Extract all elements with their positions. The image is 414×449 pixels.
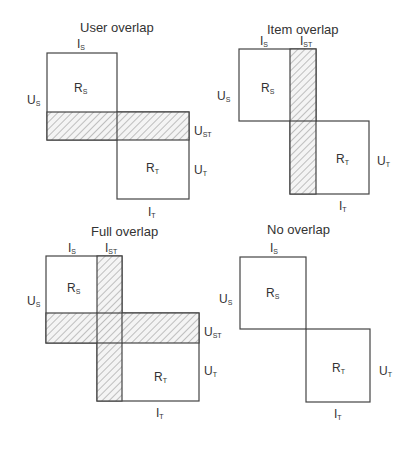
label-us: US xyxy=(27,294,41,308)
label-ist: IST xyxy=(105,241,118,255)
label-us: US xyxy=(217,89,231,103)
label-it: IT xyxy=(334,407,342,421)
panel-title: No overlap xyxy=(267,222,330,237)
panel-no-overlap: No overlap IS US RS UT RT IT xyxy=(219,222,393,421)
label-us: US xyxy=(219,292,233,306)
panel-full-overlap: Full overlap IS IST US RS UST UT RT IT xyxy=(27,224,222,420)
label-it: IT xyxy=(156,406,164,420)
panel-title: User overlap xyxy=(80,20,154,35)
label-it: IT xyxy=(339,199,347,213)
label-is: IS xyxy=(68,241,76,255)
label-is: IS xyxy=(77,37,85,51)
label-us: US xyxy=(27,93,41,107)
label-rt: RT xyxy=(336,152,350,166)
label-rt: RT xyxy=(332,361,346,375)
label-ut: UT xyxy=(194,163,208,177)
overlap-diagram: User overlap IS US RS UST UT RT IT Item … xyxy=(0,0,414,449)
label-rs: RS xyxy=(67,281,81,295)
label-ut: UT xyxy=(379,364,393,378)
panel-title: Full overlap xyxy=(91,224,158,239)
label-ut: UT xyxy=(377,154,391,168)
shared-users-band xyxy=(47,112,189,140)
label-ust: UST xyxy=(194,124,212,138)
label-it: IT xyxy=(148,205,156,219)
label-rs: RS xyxy=(261,81,275,95)
label-ust: UST xyxy=(204,325,222,339)
panel-user-overlap: User overlap IS US RS UST UT RT IT xyxy=(27,20,212,219)
label-rs: RS xyxy=(266,286,280,300)
panel-item-overlap: Item overlap IS IST US RS UT RT IT xyxy=(217,22,391,213)
label-is: IS xyxy=(270,241,278,255)
label-rs: RS xyxy=(74,81,88,95)
label-rt: RT xyxy=(146,161,160,175)
label-ut: UT xyxy=(204,364,218,378)
label-rt: RT xyxy=(154,370,168,384)
